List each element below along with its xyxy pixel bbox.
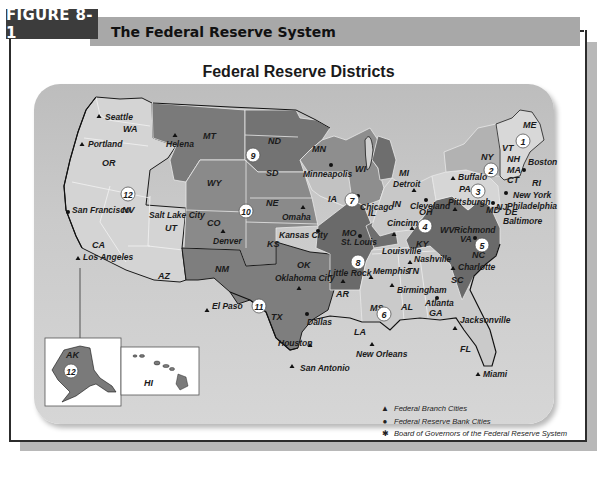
svg-text:San Francisco: San Francisco [72,205,130,215]
city-new-orleans: New Orleans [356,342,408,359]
svg-text:Pittsburgh: Pittsburgh [448,197,491,207]
svg-text:10: 10 [241,207,251,217]
svg-text:Little Rock: Little Rock [328,268,373,278]
svg-text:Nashville: Nashville [414,254,452,264]
svg-text:KS: KS [267,239,280,249]
legend-item-branch: ▲ Federal Branch Cities [381,403,567,416]
svg-text:Detroit: Detroit [393,179,422,189]
svg-text:3: 3 [475,187,480,197]
city-houston: Houston [278,338,313,348]
svg-text:New York: New York [513,190,553,200]
svg-text:12: 12 [123,190,133,200]
map-legend: ▲ Federal Branch Cities ● Federal Reserv… [381,403,567,441]
svg-text:HI: HI [144,378,153,388]
svg-text:Chicago: Chicago [360,202,394,212]
hawaii-inset [121,347,199,395]
svg-text:IA: IA [328,194,337,204]
svg-text:TX: TX [271,312,283,322]
svg-text:Helena: Helena [166,139,194,149]
svg-text:FL: FL [460,344,471,354]
city-birmingham: Birmingham [390,283,448,295]
svg-text:2: 2 [487,166,493,176]
triangle-icon: ▲ [381,403,389,416]
svg-text:Salt Lake City: Salt Lake City [149,210,206,220]
legend-label: Board of Governors of the Federal Reserv… [394,428,567,441]
svg-text:Houston: Houston [278,338,312,348]
city-salt-lake-city: Salt Lake City [149,210,206,220]
svg-text:El Paso: El Paso [212,301,243,311]
svg-text:CA: CA [92,240,105,250]
district-marker-12: 12 [121,187,135,201]
svg-text:Cleveland: Cleveland [410,201,451,211]
svg-text:CT: CT [507,175,520,185]
city-los-angeles: Los Angeles [76,252,134,262]
svg-text:AR: AR [335,289,349,299]
svg-text:San Antonio: San Antonio [300,363,350,373]
district-marker-7: 7 [345,193,359,207]
svg-text:NY: NY [481,152,494,162]
svg-text:Minneapolis: Minneapolis [303,169,352,179]
svg-text:8: 8 [355,258,360,268]
svg-text:Seattle: Seattle [105,112,133,122]
svg-text:Dallas: Dallas [307,317,332,327]
svg-text:NE: NE [266,198,279,208]
city-miami: Miami [476,369,508,379]
star-icon: ✱ [381,428,389,441]
svg-text:NH: NH [507,154,520,164]
svg-text:NM: NM [215,264,229,274]
svg-text:12: 12 [66,367,76,377]
svg-text:4: 4 [421,222,427,232]
svg-text:MI: MI [399,168,409,178]
city-atlanta: Atlanta [424,296,454,308]
legend-item-reserve-bank: ● Federal Reserve Bank Cities [381,416,567,429]
alaska-inset [45,268,121,406]
svg-text:11: 11 [255,302,264,312]
city-boston: Boston [522,157,557,172]
svg-text:Philadelphia: Philadelphia [507,201,557,211]
svg-text:AK: AK [65,350,80,360]
svg-text:Los Angeles: Los Angeles [83,252,133,262]
legend-label: Federal Branch Cities [394,403,467,416]
district-marker-12-ak: 12 [64,364,78,378]
city-san-antonio: San Antonio [290,363,350,373]
city-charlotte: Charlotte [451,262,496,272]
svg-text:Birmingham: Birmingham [397,285,447,295]
svg-text:Charlotte: Charlotte [458,262,496,272]
svg-text:MA: MA [507,165,521,175]
svg-text:GA: GA [429,308,443,318]
city-kansas-city: Kansas City [279,229,329,240]
city-new-york: New York [504,190,553,200]
svg-text:SD: SD [266,168,279,178]
svg-text:ME: ME [523,120,537,130]
svg-text:New Orleans: New Orleans [356,349,408,359]
district-marker-2: 2 [484,163,498,177]
svg-text:Denver: Denver [213,236,243,246]
svg-text:OR: OR [102,158,116,168]
svg-text:Oklahoma City: Oklahoma City [275,273,336,283]
svg-text:Kansas City: Kansas City [279,230,329,240]
svg-text:Jacksonville: Jacksonville [460,315,511,325]
svg-text:Richmond: Richmond [454,225,496,235]
district-marker-1: 1 [516,134,530,148]
district-marker-4: 4 [418,219,432,233]
district-marker-9: 9 [246,148,260,162]
legend-item-board: ✱ Board of Governors of the Federal Rese… [381,428,567,441]
district-marker-10: 10 [239,204,253,218]
svg-text:WY: WY [207,178,222,188]
svg-text:SC: SC [451,275,464,285]
city-san-francisco: San Francisco [66,205,130,215]
city-nashville: Nashville [408,254,452,264]
svg-text:WA: WA [123,124,138,134]
svg-text:Buffalo: Buffalo [458,172,487,182]
svg-text:VT: VT [502,143,515,153]
svg-text:Baltimore: Baltimore [503,216,542,226]
svg-text:Portland: Portland [88,139,123,149]
svg-text:Memphis: Memphis [373,266,410,276]
svg-text:OK: OK [297,260,312,270]
svg-text:CO: CO [207,218,221,228]
svg-text:MT: MT [203,131,217,141]
svg-text:PA: PA [459,184,471,194]
svg-text:LA: LA [354,327,366,337]
svg-text:AL: AL [400,302,413,312]
svg-text:ND: ND [268,136,281,146]
